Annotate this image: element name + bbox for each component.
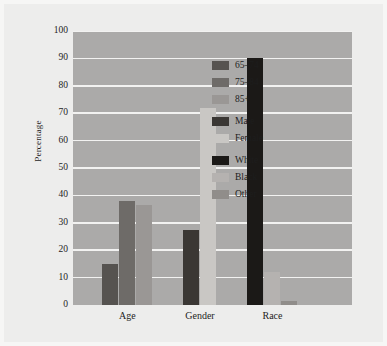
x-axis-tick-label-age: Age — [87, 310, 167, 321]
legend-item-85-: 85+ — [212, 94, 250, 105]
legend-label: 65–74 — [235, 61, 259, 71]
legend-item-65-74: 65–74 — [212, 60, 259, 71]
y-axis-tick-label: 10 — [42, 273, 68, 283]
x-axis-tick-label-gender: Gender — [160, 310, 240, 321]
legend-label: 75–84 — [235, 78, 259, 88]
legend-swatch — [212, 173, 229, 182]
legend-label: White — [235, 156, 258, 166]
bar-chart-figure: Percentage 0102030405060708090100 AgeGen… — [0, 0, 387, 346]
legend-swatch — [212, 95, 229, 104]
legend-swatch — [212, 190, 229, 199]
y-axis-tick-label: 20 — [42, 245, 68, 255]
y-axis-tick-label: 60 — [42, 136, 68, 146]
y-axis-tick-label: 90 — [42, 54, 68, 64]
y-axis-tick-label: 80 — [42, 81, 68, 91]
legend-label: Black — [235, 173, 257, 183]
legend-swatch — [212, 156, 229, 165]
legend-label: Male — [235, 117, 255, 127]
bar-65-74 — [102, 264, 118, 305]
legend-item-female: Female — [212, 133, 263, 144]
legend-swatch — [212, 117, 229, 126]
legend-swatch — [212, 78, 229, 87]
legend-label: Other — [235, 190, 257, 200]
y-axis-tick-label: 40 — [42, 191, 68, 201]
y-axis-tick-label: 30 — [42, 218, 68, 228]
legend-item-other: Other — [212, 189, 257, 200]
y-axis-title: Percentage — [33, 81, 43, 201]
legend-item-male: Male — [212, 116, 255, 127]
gridline — [73, 31, 352, 32]
y-axis-tick-label: 50 — [42, 163, 68, 173]
y-axis-tick-label: 70 — [42, 108, 68, 118]
y-axis-tick-label: 0 — [42, 300, 68, 310]
y-axis-tick-label: 100 — [42, 26, 68, 36]
gridline — [73, 58, 352, 60]
legend-label: 85+ — [235, 95, 250, 105]
bar-85- — [136, 205, 152, 305]
legend-swatch — [212, 61, 229, 70]
bar-other — [281, 301, 297, 305]
bar-75-84 — [119, 201, 135, 305]
legend-label: Female — [235, 134, 263, 144]
x-axis-tick-label-race: Race — [232, 310, 312, 321]
legend-item-75-84: 75–84 — [212, 77, 259, 88]
bar-black — [264, 272, 280, 305]
legend-item-black: Black — [212, 172, 257, 183]
legend-item-white: White — [212, 155, 258, 166]
legend-swatch — [212, 134, 229, 143]
bar-male — [183, 230, 199, 305]
plot-area — [73, 31, 352, 305]
